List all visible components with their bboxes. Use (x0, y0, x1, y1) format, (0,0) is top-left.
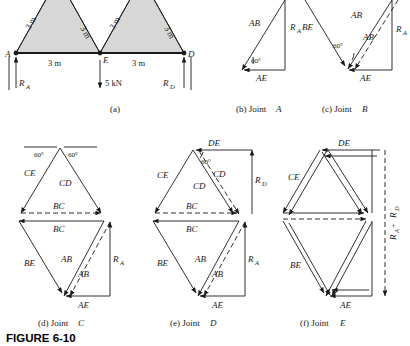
joint-e-diagram: DE CE BE AE R A + R D (f) Joint E (283, 138, 400, 328)
caption-b-joint: A (275, 104, 282, 114)
joint-e-be-vector-1 (283, 221, 324, 293)
joint-e-label-rd: R (388, 212, 398, 219)
joint-d-label-de: DE (207, 138, 220, 148)
caption-d: (d) Joint (38, 318, 69, 328)
joint-b-label-ab-1: AB (350, 10, 362, 20)
caption-b: (b) Joint (236, 104, 267, 114)
joint-e-reaction-label-group: R A + R D (388, 206, 400, 241)
joint-d-label-rd-sub: D (261, 180, 267, 187)
truss-span-ae: 3 m (48, 58, 61, 68)
load-label: 5 kN (105, 78, 122, 88)
reaction-ra-label: R (18, 78, 25, 88)
joint-a-label-ra-sub: A (296, 27, 301, 34)
joint-e-dc-line-1 (322, 152, 362, 214)
joint-b-label-ae: AE (359, 73, 371, 83)
joint-b-label-ab-2: AB (362, 32, 374, 42)
joint-b-diagram: BE AB AB R A 60° AE (c) Joint B (302, 0, 407, 114)
joint-e-label-rd-sub: D (393, 206, 400, 212)
caption-a: (a) (110, 104, 120, 114)
joint-a-label-ab: AB (248, 18, 260, 28)
joint-c-label-ce: CE (24, 168, 36, 178)
joint-c-label-ae: AE (77, 300, 89, 310)
joint-c-label-ra: R (112, 254, 119, 264)
joint-d-label-bc-lower: BC (186, 224, 198, 234)
joint-b-be-vector (305, 0, 345, 66)
figure-6-10: A E D 3 m 3 m 3 m 3 m 3 m 3 m R A 5 kN R… (0, 0, 410, 346)
joint-d-label-bc-upper: BC (186, 201, 198, 211)
caption-f-joint: E (339, 318, 346, 328)
joint-b-angle-label: 60° (333, 42, 343, 50)
joint-d-diagram: DE 60° CE CD CD R D BC BC BE AB AB R A A… (153, 138, 267, 328)
reaction-rd-sub: D (169, 83, 175, 90)
caption-d-joint: C (78, 318, 85, 328)
truss-label-a: A (4, 49, 11, 59)
joint-e-ea-line-2 (332, 222, 372, 296)
joint-b-label-ra-sub: A (402, 29, 407, 36)
joint-a-label-ra: R (289, 22, 296, 32)
reaction-rd-label: R (162, 78, 169, 88)
joint-c-label-be: BE (24, 258, 35, 268)
joint-d-label-ce: CE (157, 170, 169, 180)
joint-a-ab-vector (242, 0, 285, 70)
joint-e-label-be: BE (290, 260, 301, 270)
joint-c-label-bc-upper: BC (53, 201, 65, 211)
joint-c-label-ab-2: AB (77, 269, 89, 279)
joint-e-label-de: DE (337, 138, 350, 148)
joint-e-node (98, 51, 103, 56)
joint-e-label-ra: R (388, 234, 398, 241)
caption-e: (e) Joint (170, 318, 200, 328)
joint-e-label-plus: + (388, 223, 398, 228)
joint-d-label-ra-sub: A (254, 259, 259, 266)
joint-e-label-ce: CE (288, 172, 300, 182)
joint-b-label-ra: R (395, 24, 402, 34)
truss-label-e: E (102, 55, 109, 65)
joint-d-label-rd: R (254, 175, 261, 185)
joint-e-be-vector-2 (289, 223, 330, 295)
joint-a-label-ae: AE (255, 73, 267, 83)
truss-span-ed: 3 m (132, 58, 145, 68)
reaction-ra-sub: A (25, 83, 30, 90)
joint-b-label-be: BE (302, 22, 313, 32)
joint-d-label-ra: R (247, 254, 254, 264)
joint-c-label-ab-1: AB (60, 254, 72, 264)
joint-e-ce-vector-2 (289, 152, 326, 215)
joint-a-angle-label: 60° (251, 57, 261, 65)
truss-diagram: A E D 3 m 3 m 3 m 3 m 3 m 3 m R A 5 kN R… (4, 0, 195, 114)
joint-c-label-bc-lower: BC (53, 224, 65, 234)
joint-c-label-cd: CD (59, 178, 72, 188)
joint-d-label-cd-2: CD (213, 169, 226, 179)
joint-c-ab-vector-2 (70, 222, 110, 296)
joint-c-angle-right: 60° (68, 151, 78, 159)
joint-c-diagram: 60° 60° CE CD BC BC BE AB AB R A AE (d) … (19, 147, 124, 328)
joint-a-diagram: AB R A 60° AE (b) Joint A (236, 0, 301, 114)
joint-e-label-ra-sub: A (393, 229, 400, 234)
figure-number: FIGURE 6-10 (6, 332, 76, 344)
joint-c-angle-left: 60° (34, 151, 44, 159)
caption-c-joint: B (362, 104, 368, 114)
joint-d-label-cd-1: CD (193, 181, 206, 191)
caption-f: (f) Joint (300, 318, 329, 328)
joint-d-ab-vector-2 (204, 222, 245, 296)
joint-a-node (14, 51, 19, 56)
joint-d-label-ab-1: AB (194, 254, 206, 264)
caption-c: (c) Joint (322, 104, 352, 114)
joint-c-label-ra-sub: A (119, 259, 124, 266)
joint-e-dc-line-2 (328, 150, 368, 213)
joint-e-ea-line-1 (326, 221, 366, 296)
joint-d-angle-label: 60° (201, 158, 211, 166)
caption-e-joint: D (209, 318, 217, 328)
joint-d-label-ab-2: AB (211, 269, 223, 279)
joint-d-label-be: BE (157, 258, 168, 268)
joint-d-node (182, 51, 187, 56)
joint-d-label-ae: AE (211, 300, 223, 310)
joint-b-angle-arc (352, 53, 354, 60)
joint-e-label-ae: AE (339, 300, 351, 310)
